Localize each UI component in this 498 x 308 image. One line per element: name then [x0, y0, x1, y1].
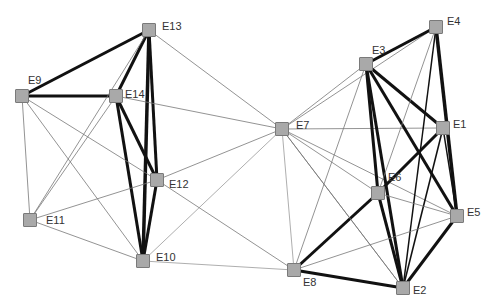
- node-e4: [429, 20, 443, 34]
- edge-e6-e8: [294, 193, 378, 270]
- edge-e9-e11: [22, 96, 30, 220]
- edge-e13-e12: [149, 30, 157, 180]
- node-label-e12: E12: [169, 178, 189, 190]
- edges-layer: [0, 0, 498, 308]
- node-label-e2: E2: [413, 284, 426, 296]
- edge-e3-e1: [366, 64, 443, 128]
- node-e7: [275, 122, 289, 136]
- edge-e12-e8: [157, 180, 294, 270]
- node-e3: [359, 57, 373, 71]
- edge-e8-e5: [294, 216, 457, 270]
- node-label-e3: E3: [372, 44, 385, 56]
- node-e10: [136, 254, 150, 268]
- node-label-e1: E1: [453, 118, 466, 130]
- node-label-e10: E10: [156, 251, 176, 263]
- edge-e7-e4: [282, 27, 436, 129]
- edge-e9-e13: [22, 30, 149, 96]
- edge-e3-e8: [294, 64, 366, 270]
- edge-e7-e3: [282, 64, 366, 129]
- edge-e7-e8: [282, 129, 294, 270]
- node-label-e4: E4: [447, 15, 460, 27]
- edge-e7-e6: [282, 129, 378, 193]
- node-e13: [142, 23, 156, 37]
- node-label-e8: E8: [303, 276, 316, 288]
- node-e6: [371, 186, 385, 200]
- edge-e10-e7: [143, 129, 282, 261]
- node-e11: [23, 213, 37, 227]
- node-e12: [150, 173, 164, 187]
- edge-e12-e7: [157, 129, 282, 180]
- node-e2: [396, 281, 410, 295]
- node-e14: [109, 89, 123, 103]
- node-e8: [287, 263, 301, 277]
- node-label-e14: E14: [125, 88, 145, 100]
- node-label-e6: E6: [388, 171, 401, 183]
- edge-e13-e7: [149, 30, 282, 129]
- node-label-e5: E5: [467, 206, 480, 218]
- node-label-e9: E9: [28, 74, 41, 86]
- edge-e9-e10: [22, 96, 143, 261]
- node-e9: [15, 89, 29, 103]
- edge-e11-e10: [30, 220, 143, 261]
- edge-e14-e7: [116, 96, 282, 129]
- node-e5: [450, 209, 464, 223]
- node-label-e13: E13: [162, 20, 182, 32]
- node-label-e7: E7: [296, 119, 309, 131]
- node-label-e11: E11: [46, 214, 65, 226]
- edge-e14-e11: [30, 96, 116, 220]
- node-e1: [436, 121, 450, 135]
- edge-e1-e2: [403, 128, 443, 288]
- network-diagram: E1E2E3E4E5E6E7E8E9E10E11E12E13E14: [0, 0, 498, 308]
